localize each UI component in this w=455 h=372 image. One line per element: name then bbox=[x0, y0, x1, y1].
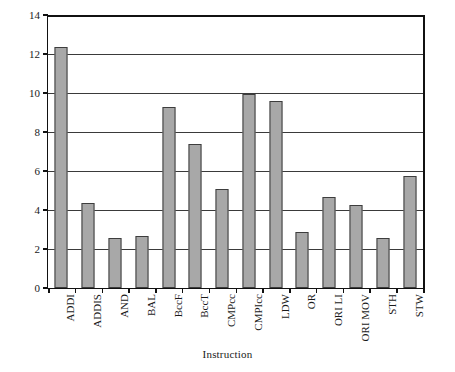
bar bbox=[82, 203, 95, 288]
y-tick-label: 2 bbox=[35, 244, 41, 255]
y-tick-label: 0 bbox=[35, 283, 41, 294]
x-tick-label: BccT bbox=[199, 294, 210, 318]
bar-slot bbox=[48, 15, 75, 288]
y-tick-label: 10 bbox=[29, 88, 40, 99]
x-tick-label: CMPIcc bbox=[253, 294, 264, 331]
x-tick-mark bbox=[423, 288, 425, 293]
y-tick-label: 4 bbox=[35, 205, 41, 216]
y-tick-label: 6 bbox=[35, 166, 41, 177]
x-tick-mark bbox=[182, 288, 184, 293]
x-tick-mark bbox=[262, 288, 264, 293]
bar-slot bbox=[262, 15, 289, 288]
x-tick-label: ORI MOV bbox=[360, 294, 371, 341]
y-tick-label: 14 bbox=[29, 10, 40, 21]
bar-slot bbox=[236, 15, 263, 288]
bar-slot bbox=[182, 15, 209, 288]
bar-slot bbox=[128, 15, 155, 288]
x-tick-mark bbox=[236, 288, 238, 293]
x-tick-mark bbox=[155, 288, 157, 293]
bar-slot bbox=[75, 15, 102, 288]
x-tick-mark bbox=[396, 288, 398, 293]
bar bbox=[135, 236, 148, 288]
x-tick-mark bbox=[316, 288, 318, 293]
bar-slot bbox=[102, 15, 129, 288]
bar bbox=[376, 238, 389, 288]
bar bbox=[296, 232, 309, 288]
x-tick-mark bbox=[75, 288, 77, 293]
x-tick-label: BccF bbox=[173, 294, 184, 317]
x-axis-title: Instruction bbox=[0, 348, 455, 360]
bar-chart: Percentage 02468101214 ADDIADDISANDBALBc… bbox=[0, 0, 455, 372]
x-tick-mark bbox=[48, 288, 50, 293]
x-tick-label: LDW bbox=[280, 294, 291, 319]
bar-slot bbox=[316, 15, 343, 288]
bar-slot bbox=[209, 15, 236, 288]
x-tick-mark bbox=[128, 288, 130, 293]
bar-slot bbox=[343, 15, 370, 288]
x-tick-mark bbox=[369, 288, 371, 293]
x-tick-label: ORI LI bbox=[333, 294, 344, 326]
bar bbox=[350, 205, 363, 288]
bar bbox=[108, 238, 121, 288]
x-tick-label: BAL bbox=[146, 294, 157, 316]
bar bbox=[55, 47, 68, 288]
bar bbox=[323, 197, 336, 288]
bar-slot bbox=[155, 15, 182, 288]
x-tick-label: CMPcc bbox=[226, 294, 237, 327]
bar bbox=[269, 101, 282, 288]
bar-slot bbox=[369, 15, 396, 288]
x-tick-mark bbox=[102, 288, 104, 293]
x-tick-label: STH bbox=[387, 294, 398, 315]
bar bbox=[242, 94, 255, 288]
x-tick-mark bbox=[289, 288, 291, 293]
bars-layer bbox=[48, 15, 423, 288]
x-tick-label: ADDIS bbox=[92, 294, 103, 328]
plot-frame-right bbox=[423, 15, 425, 288]
bar bbox=[403, 176, 416, 288]
plot-area: 02468101214 bbox=[47, 15, 423, 289]
bar bbox=[189, 144, 202, 288]
x-tick-label: AND bbox=[119, 294, 130, 318]
bar-slot bbox=[289, 15, 316, 288]
bar bbox=[216, 189, 229, 288]
x-tick-mark bbox=[343, 288, 345, 293]
x-tick-mark bbox=[209, 288, 211, 293]
x-tick-label: OR bbox=[306, 294, 317, 309]
bar bbox=[162, 107, 175, 288]
x-tick-label: ADDI bbox=[65, 294, 76, 322]
x-tick-label: STW bbox=[414, 294, 425, 317]
y-tick-label: 8 bbox=[35, 127, 41, 138]
y-tick-label: 12 bbox=[29, 49, 40, 60]
bar-slot bbox=[396, 15, 423, 288]
